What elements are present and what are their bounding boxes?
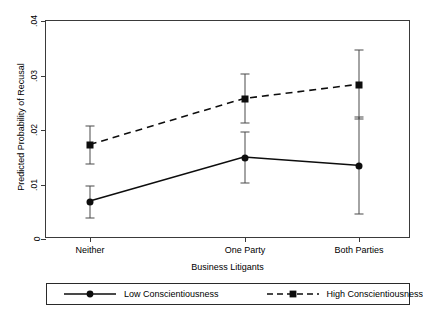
legend-label-high: High Conscientiousness bbox=[327, 289, 423, 299]
legend-label-low: Low Conscientiousness bbox=[124, 289, 219, 299]
y-axis-title: Predicted Probability of Recusal bbox=[16, 12, 26, 242]
error-bar-cap bbox=[86, 217, 95, 218]
error-bar-cap bbox=[86, 126, 95, 127]
error-bar-cap bbox=[86, 185, 95, 186]
x-axis-title: Business Litigants bbox=[45, 262, 410, 272]
x-axis-tick bbox=[90, 237, 91, 242]
series-line bbox=[90, 84, 358, 144]
legend-solid-line-icon bbox=[63, 288, 117, 300]
y-axis-tick-label: .03 bbox=[29, 70, 39, 82]
data-point-marker bbox=[356, 81, 363, 88]
error-bar-cap bbox=[241, 74, 250, 75]
x-axis-tick bbox=[359, 237, 360, 242]
series-line bbox=[90, 157, 358, 201]
y-axis-tick-label: .04 bbox=[29, 15, 39, 27]
data-point-marker bbox=[242, 154, 249, 161]
data-point-marker bbox=[87, 142, 94, 149]
x-axis-tick-label: One Party bbox=[225, 245, 266, 255]
error-bar-cap bbox=[355, 119, 364, 120]
legend: Low Conscientiousness High Conscientious… bbox=[46, 283, 410, 305]
error-bar-cap bbox=[241, 122, 250, 123]
x-axis-tick bbox=[245, 237, 246, 242]
data-point-marker bbox=[87, 198, 94, 205]
error-bar-cap bbox=[241, 182, 250, 183]
error-bar-cap bbox=[86, 164, 95, 165]
plot-inner: 0.01.02.03.04NeitherOne PartyBoth Partie… bbox=[46, 21, 409, 237]
y-axis-tick bbox=[41, 185, 46, 186]
x-axis-tick-label: Neither bbox=[75, 245, 104, 255]
legend-dashed-line-icon bbox=[266, 288, 320, 300]
y-axis-tick bbox=[41, 21, 46, 22]
y-axis-tick-label: .02 bbox=[29, 124, 39, 136]
y-axis-tick bbox=[41, 76, 46, 77]
y-axis-tick-label: .01 bbox=[29, 179, 39, 191]
error-bar-cap bbox=[355, 213, 364, 214]
y-axis-tick-label: 0 bbox=[33, 237, 43, 242]
legend-item-high-conscientiousness: High Conscientiousness bbox=[266, 288, 423, 300]
plot-area: 0.01.02.03.04NeitherOne PartyBoth Partie… bbox=[45, 20, 410, 238]
error-bar-cap bbox=[241, 132, 250, 133]
data-point-marker bbox=[242, 95, 249, 102]
data-point-marker bbox=[356, 162, 363, 169]
legend-item-low-conscientiousness: Low Conscientiousness bbox=[63, 288, 219, 300]
error-bar-cap bbox=[355, 49, 364, 50]
series-line-layer bbox=[46, 21, 409, 238]
y-axis-tick bbox=[41, 130, 46, 131]
x-axis-tick-label: Both Parties bbox=[334, 245, 383, 255]
